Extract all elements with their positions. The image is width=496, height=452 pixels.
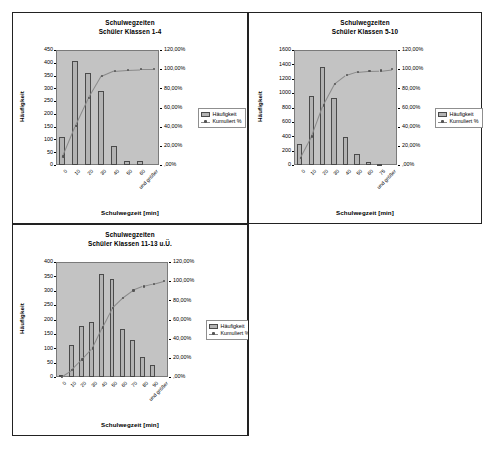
cumulative-line-marker [112, 307, 114, 309]
y-axis-tick-label: 350 [32, 73, 53, 78]
cumulative-line-marker [61, 376, 63, 378]
secondary-y-axis-tick-label: 120,00% [173, 259, 194, 264]
y-axis-tick-mark [54, 152, 56, 153]
y-axis-tick-label: 100 [32, 346, 53, 351]
secondary-y-axis-tick-label: 80,00% [164, 86, 182, 91]
line-marker-swatch-icon [201, 119, 210, 124]
secondary-y-axis-tick-mark [160, 146, 162, 147]
y-axis-tick-mark [54, 63, 56, 64]
cumulative-line-marker [143, 285, 145, 287]
y-axis-tick-mark [54, 127, 56, 128]
bar [366, 162, 371, 165]
legend-label-kumuliert: Kumuliert % [213, 118, 242, 125]
y-axis-tick-mark [292, 64, 294, 65]
y-axis-tick-label: 1000 [270, 90, 291, 95]
line-marker-swatch-icon [438, 119, 447, 124]
secondary-y-axis-tick-label: 40,00% [164, 124, 182, 129]
secondary-y-axis-tick-label: 40,00% [173, 336, 191, 341]
bar [85, 73, 91, 165]
cumulative-line-marker [114, 70, 116, 72]
cumulative-line-marker [132, 289, 134, 291]
secondary-y-axis-tick-mark [160, 69, 162, 70]
cumulative-line-marker [127, 69, 129, 71]
empty-panel-border [248, 224, 482, 436]
bar [140, 357, 145, 377]
cumulative-line-marker [380, 69, 382, 71]
legend-item-haeufigkeit: Häufigkeit [438, 111, 479, 118]
bar [98, 91, 104, 165]
y-axis-tick-mark [54, 334, 56, 335]
y-axis-tick-mark [54, 76, 56, 77]
y-axis-tick-label: 50 [32, 360, 53, 365]
bar [331, 98, 336, 165]
y-axis-tick-mark [292, 108, 294, 109]
secondary-y-axis-tick-mark [169, 281, 171, 282]
cumulative-line-marker [357, 71, 359, 73]
y-axis-tick-label: 350 [32, 274, 53, 279]
y-axis-tick-label: 300 [32, 288, 53, 293]
secondary-y-axis-tick-label: ,00% [402, 162, 414, 167]
y-axis-tick-mark [54, 101, 56, 102]
y-axis-tick-mark [54, 348, 56, 349]
secondary-y-axis-tick-mark [160, 88, 162, 89]
y-axis-tick-label: 250 [32, 98, 53, 103]
legend-label-haeufigkeit: Häufigkeit [221, 323, 245, 330]
chart-panel-klassen-11-13: Schulwegzeiten Schüler Klassen 11-13 u.Ü… [12, 224, 248, 436]
secondary-y-axis-tick-label: ,00% [173, 374, 185, 379]
y-axis-tick-label: 0 [32, 162, 53, 167]
cumulative-line-marker [323, 104, 325, 106]
secondary-y-axis-tick-label: ,00% [164, 162, 176, 167]
legend-label-haeufigkeit: Häufigkeit [450, 111, 474, 118]
y-axis-tick-mark [54, 291, 56, 292]
secondary-y-axis-tick-label: 40,00% [402, 124, 420, 129]
secondary-y-axis-tick-label: 60,00% [402, 105, 420, 110]
cumulative-line-marker [75, 125, 77, 127]
y-axis-tick-label: 100 [32, 137, 53, 142]
bar [72, 61, 78, 165]
y-axis-tick-label: 200 [270, 148, 291, 153]
legend-item-kumuliert: Kumuliert % [209, 330, 250, 337]
secondary-y-axis-tick-label: 100,00% [164, 66, 185, 71]
y-axis-tick-mark [54, 320, 56, 321]
legend-item-haeufigkeit: Häufigkeit [209, 323, 250, 330]
y-axis-tick-mark [54, 305, 56, 306]
y-axis-tick-label: 300 [32, 86, 53, 91]
y-axis-tick-label: 150 [32, 331, 53, 336]
y-axis-tick-mark [54, 88, 56, 89]
secondary-y-axis-tick-label: 120,00% [402, 47, 423, 52]
y-axis-tick-label: 1600 [270, 47, 291, 52]
y-axis-tick-label: 400 [32, 259, 53, 264]
secondary-y-axis-tick-label: 20,00% [164, 143, 182, 148]
chart-title-line2: Schüler Klassen 11-13 u.Ü. [13, 240, 247, 249]
secondary-y-axis-tick-label: 20,00% [402, 143, 420, 148]
y-axis-tick-mark [292, 136, 294, 137]
secondary-y-axis-tick-mark [169, 358, 171, 359]
legend-label-kumuliert: Kumuliert % [221, 330, 250, 337]
y-axis-tick-mark [292, 122, 294, 123]
y-axis-tick-mark [54, 262, 56, 263]
legend-item-kumuliert: Kumuliert % [438, 118, 479, 125]
y-axis-tick-label: 1400 [270, 62, 291, 67]
chart-title-line2: Schüler Klassen 1-4 [13, 28, 247, 37]
y-axis-tick-mark [54, 276, 56, 277]
y-axis-tick-label: 250 [32, 302, 53, 307]
secondary-y-axis-tick-mark [160, 127, 162, 128]
y-axis-title: Häufigkeit [256, 87, 263, 127]
secondary-y-axis-tick-label: 100,00% [402, 66, 423, 71]
y-axis-tick-label: 400 [270, 134, 291, 139]
y-axis-tick-label: 800 [270, 105, 291, 110]
secondary-y-axis-tick-mark [398, 146, 400, 147]
y-axis-tick-mark [54, 50, 56, 51]
bar [354, 154, 359, 166]
secondary-y-axis-tick-mark [398, 88, 400, 89]
x-axis-title: Schulwegzeit [min] [249, 209, 481, 216]
chart-klassen-11-13: Schulwegzeiten Schüler Klassen 11-13 u.Ü… [13, 225, 247, 435]
bar [120, 329, 125, 377]
y-axis-tick-label: 450 [32, 47, 53, 52]
bar-swatch-icon [438, 112, 447, 117]
secondary-y-axis-tick-mark [169, 320, 171, 321]
secondary-y-axis-tick-mark [398, 127, 400, 128]
legend: Häufigkeit Kumuliert % [198, 108, 246, 128]
bar [124, 161, 130, 165]
y-axis-tick-label: 200 [32, 111, 53, 116]
